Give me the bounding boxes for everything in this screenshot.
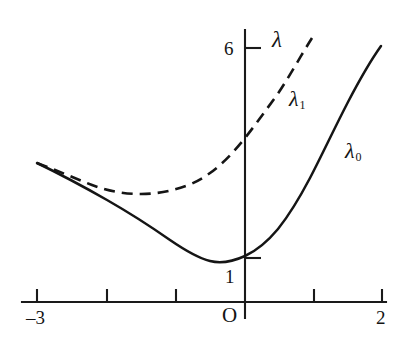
lambda-one-label: λ1 (289, 88, 305, 110)
x-tick-label-2: 2 (376, 308, 386, 327)
lambda-zero-curve (37, 46, 381, 262)
lambda-zero-base: λ (345, 138, 355, 163)
lambda-curves-figure: λ 6 1 –3 2 O λ1 λ0 (0, 0, 409, 346)
lambda-zero-subscript: 0 (356, 150, 362, 164)
origin-label: O (222, 305, 237, 326)
x-tick-label-minus-3: –3 (26, 308, 45, 327)
lambda-zero-label: λ0 (345, 140, 361, 162)
lambda-one-subscript: 1 (300, 98, 306, 112)
y-tick-label-1: 1 (225, 267, 235, 286)
y-axis-label: λ (272, 28, 282, 51)
lambda-one-curve (37, 38, 312, 194)
lambda-one-base: λ (289, 86, 299, 111)
y-tick-label-6: 6 (224, 39, 234, 58)
plot-canvas (0, 0, 409, 346)
